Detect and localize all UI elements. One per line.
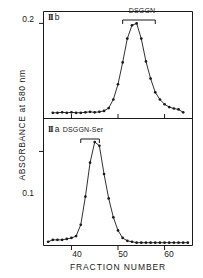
lower-point [173,241,176,244]
lower-point [135,241,138,244]
lower-point [145,241,148,244]
series-upper [51,22,184,114]
upper-point [84,111,87,114]
lower-point [61,239,64,242]
annotation-brackets [81,20,156,143]
lower-point [159,241,162,244]
lower-point [107,197,110,200]
lower-point [70,237,73,240]
upper-point [56,111,59,114]
lower-point [56,239,59,242]
lower-point [103,173,106,176]
upper-point [163,103,166,106]
upper-point [75,111,78,114]
upper-point [61,111,64,114]
upper-point [182,111,185,114]
lower-point [98,144,101,147]
plot-area [0,0,203,278]
lower-point [93,141,96,144]
upper-point [149,77,152,80]
upper-point [145,60,148,63]
lower-point [75,235,78,238]
axes-layer [39,12,193,251]
upper-point [65,111,68,114]
upper-line [53,23,183,112]
upper-point [154,91,157,94]
upper-point [131,24,134,27]
lower-point [154,241,157,244]
upper-point [140,37,143,40]
lower-point [89,161,92,164]
series-lower [47,141,189,244]
lower-point [168,241,171,244]
figure-container: ABSORBANCE at 580 nm FRACTION NUMBER 0.2… [0,0,203,278]
upper-point [168,106,171,109]
upper-point [89,110,92,113]
lower-point [121,237,124,240]
lower-point [112,216,115,219]
lower-point [84,195,87,198]
upper-point [159,98,162,101]
lower-point [131,240,134,243]
lower-point [163,241,166,244]
upper-point [70,111,73,114]
upper-point [117,83,120,86]
upper-point [112,98,115,101]
upper-point [93,111,96,114]
lower-point [182,241,185,244]
upper-point [51,111,54,114]
lower-point [117,229,120,232]
upper-point [135,22,138,25]
lower-point [186,241,189,244]
lower-line [48,142,188,243]
upper-point [79,111,82,114]
upper-point [98,110,101,113]
lower-point [177,241,180,244]
bracket-lower [81,139,100,143]
upper-point [107,107,110,110]
bracket-upper [123,20,156,24]
lower-point [149,241,152,244]
upper-point [103,110,106,113]
lower-point [51,239,54,242]
lower-point [65,238,68,241]
upper-point [177,108,180,111]
upper-point [173,107,176,110]
upper-point [126,37,129,40]
upper-point [121,61,124,64]
lower-point [126,239,129,242]
lower-point [140,241,143,244]
lower-point [47,240,50,243]
lower-point [79,223,82,226]
